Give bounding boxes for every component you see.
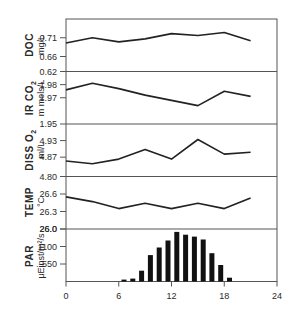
x-tick-label: 18 <box>219 291 229 301</box>
x-tick-label: 12 <box>166 291 176 301</box>
y-axis-title-co2: IR CO2 m mols/L <box>24 80 46 117</box>
x-tick-label: 6 <box>116 291 121 301</box>
diss_o2-line <box>66 140 251 164</box>
plot-series <box>66 33 251 282</box>
temp-line <box>66 197 251 209</box>
par-bar <box>130 279 135 282</box>
doc-line <box>66 33 251 44</box>
par-bar <box>183 235 188 282</box>
y-tick-label: 1.95 <box>39 119 57 129</box>
par-bar <box>148 255 153 281</box>
doc-unit: mg/L <box>36 35 46 55</box>
ir_co2-line <box>66 83 251 105</box>
par-bar <box>192 237 197 282</box>
x-tick-label: 24 <box>272 291 282 301</box>
par-unit: μEinst/m²/s <box>36 233 46 279</box>
par-bar <box>174 232 179 282</box>
plot-frame <box>66 19 277 282</box>
panel-frames <box>66 19 277 282</box>
par-bar <box>166 241 171 282</box>
par-bar <box>139 271 144 282</box>
par-bar <box>209 253 214 281</box>
doc-title: DOC <box>24 33 35 57</box>
y-tick-label: 26.0 <box>39 224 57 234</box>
x-axis: 06121824 <box>63 282 282 301</box>
o2-unit: ml/L <box>36 141 46 158</box>
par-bar <box>218 265 223 282</box>
y-tick-label: 0.62 <box>39 67 57 77</box>
par-title: PAR <box>24 245 35 267</box>
multi-panel-chart: 0.710.660.621.981.971.954.934.874.8026.6… <box>0 0 296 315</box>
par-bar <box>201 240 206 282</box>
y-tick-label: 4.80 <box>39 172 57 182</box>
co2-unit: m mols/L <box>36 80 46 117</box>
par-bar <box>122 280 127 282</box>
temp-unit: °C <box>36 196 46 207</box>
par-bar <box>227 278 232 282</box>
x-tick-label: 0 <box>63 291 68 301</box>
y-axis-title-doc: DOC mg/L <box>24 33 46 57</box>
temp-title: TEMP <box>24 187 35 217</box>
y-axis-title-par: PAR μEinst/m²/s <box>24 233 46 279</box>
par-bar <box>157 248 162 282</box>
